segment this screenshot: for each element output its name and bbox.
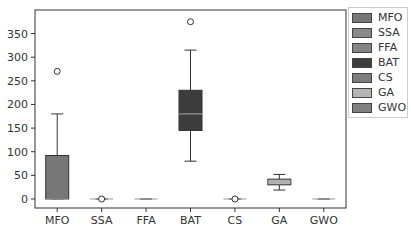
legend-label: CS — [378, 71, 393, 84]
legend-swatch — [352, 73, 372, 83]
legend-label: SSA — [378, 26, 400, 39]
legend-label: GWO — [378, 101, 406, 114]
box-cs — [223, 196, 246, 202]
box-bat — [179, 19, 202, 161]
x-tick-label: MFO — [45, 214, 70, 227]
outlier-point — [54, 68, 60, 74]
legend-label: MFO — [378, 11, 402, 24]
box-ssa — [90, 196, 113, 202]
legend-item: SSA — [352, 25, 407, 40]
outlier-point — [188, 19, 194, 25]
legend-label: GA — [378, 86, 394, 99]
y-tick-label: 250 — [7, 75, 28, 88]
y-tick-label: 200 — [7, 98, 28, 111]
box-mfo — [46, 68, 69, 199]
y-tick-label: 0 — [21, 193, 28, 206]
x-tick-label: BAT — [180, 214, 201, 227]
boxes — [46, 19, 336, 202]
x-tick-label: CS — [228, 214, 243, 227]
legend-item: BAT — [352, 55, 407, 70]
legend-item: CS — [352, 70, 407, 85]
legend-swatch — [352, 28, 372, 38]
x-tick-label: FFA — [136, 214, 156, 227]
legend-swatch — [352, 58, 372, 68]
y-tick-label: 50 — [14, 169, 28, 182]
legend-item: GWO — [352, 100, 407, 115]
x-tick-label: SSA — [91, 214, 113, 227]
y-tick-label: 300 — [7, 51, 28, 64]
legend-item: FFA — [352, 40, 407, 55]
y-tick-label: 350 — [7, 28, 28, 41]
iqr-box — [179, 90, 202, 130]
legend-item: GA — [352, 85, 407, 100]
box-ga — [268, 174, 291, 190]
legend-label: FFA — [378, 41, 397, 54]
legend-swatch — [352, 88, 372, 98]
y-tick-label: 150 — [7, 122, 28, 135]
y-tick-label: 100 — [7, 146, 28, 159]
legend: MFOSSAFFABATCSGAGWO — [348, 7, 408, 118]
legend-item: MFO — [352, 10, 407, 25]
legend-label: BAT — [378, 56, 399, 69]
x-tick-label: GWO — [310, 214, 338, 227]
legend-swatch — [352, 103, 372, 113]
x-tick-label: GA — [271, 214, 288, 227]
iqr-box — [46, 156, 69, 199]
outlier-point — [232, 196, 238, 202]
outlier-point — [99, 196, 105, 202]
legend-swatch — [352, 43, 372, 53]
legend-swatch — [352, 13, 372, 23]
